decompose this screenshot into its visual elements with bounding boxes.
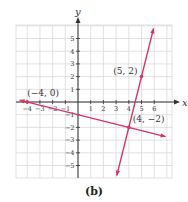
x-tick-label: 4: [127, 105, 131, 113]
x-tick-label: 1: [89, 105, 93, 113]
y-tick-label: −5: [65, 162, 75, 170]
y-tick-label: 1: [70, 86, 74, 94]
point-label: (4, −2): [133, 114, 165, 124]
y-tick-label: 4: [70, 48, 74, 56]
x-tick-label: 2: [101, 105, 105, 113]
x-tick-label: 3: [114, 105, 118, 113]
x-axis-arrow-icon: [174, 100, 180, 105]
y-tick-label: 5: [70, 35, 74, 43]
y-tick-label: −3: [65, 136, 75, 144]
x-tick-label: 6: [152, 105, 156, 113]
x-tick-label: 5: [139, 105, 143, 113]
y-tick-label: −2: [65, 124, 75, 132]
x-axis-label: x: [182, 97, 188, 108]
coordinate-plane: xy−4−3−2−112345654321−1−2−3−4−5 (−4, 0)(…: [0, 0, 188, 202]
y-tick-label: −4: [65, 149, 75, 157]
point-label: (5, 2): [113, 66, 137, 76]
data-point: [25, 100, 29, 104]
y-axis-label: y: [74, 6, 81, 17]
figure-caption: (b): [0, 185, 188, 198]
y-axis-arrow-icon: [76, 17, 81, 23]
point-label: (−4, 0): [27, 88, 59, 98]
data-point: [140, 75, 144, 79]
x-tick-label: −4: [22, 105, 32, 113]
data-point: [127, 126, 131, 130]
y-tick-label: 2: [70, 73, 74, 81]
y-tick-label: 3: [70, 60, 74, 68]
